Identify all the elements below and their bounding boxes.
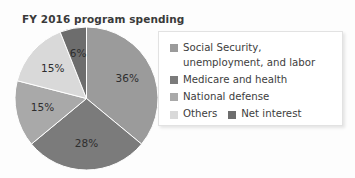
- pie-slice-value-label: 36%: [116, 72, 139, 84]
- legend-item-label: National defense: [183, 89, 269, 104]
- pie-slice-value-label: 6%: [70, 47, 87, 59]
- legend-swatch-icon: [170, 76, 178, 84]
- legend-item-social-security[interactable]: Social Security, unemployment, and labor: [170, 40, 336, 70]
- page-title: FY 2016 program spending: [22, 13, 184, 25]
- legend-swatch-icon: [170, 111, 178, 119]
- pie-slice-value-label: 15%: [31, 101, 54, 113]
- legend: Social Security, unemployment, and labor…: [158, 31, 343, 126]
- chart-figure: FY 2016 program spending 36%28%15%15%6% …: [0, 0, 355, 178]
- pie-slice-value-label: 28%: [75, 137, 98, 149]
- pie-slice-value-label: 15%: [41, 62, 64, 74]
- legend-list: Social Security, unemployment, and labor…: [170, 40, 336, 123]
- legend-item-label: Others: [183, 106, 217, 121]
- legend-item-label: Social Security, unemployment, and labor: [183, 40, 336, 70]
- pie-chart: 36%28%15%15%6%: [14, 26, 159, 171]
- legend-item-label: Net interest: [241, 106, 301, 121]
- legend-item-national-defense[interactable]: National defense: [170, 89, 336, 104]
- legend-item-row-others-net-interest[interactable]: Others Net interest: [170, 106, 336, 121]
- legend-swatch-icon: [170, 44, 178, 52]
- legend-swatch-icon: [228, 111, 236, 119]
- pie-chart-svg: 36%28%15%15%6%: [14, 26, 159, 171]
- legend-item-label: Medicare and health: [183, 72, 287, 87]
- legend-item-medicare[interactable]: Medicare and health: [170, 72, 336, 87]
- legend-swatch-icon: [170, 93, 178, 101]
